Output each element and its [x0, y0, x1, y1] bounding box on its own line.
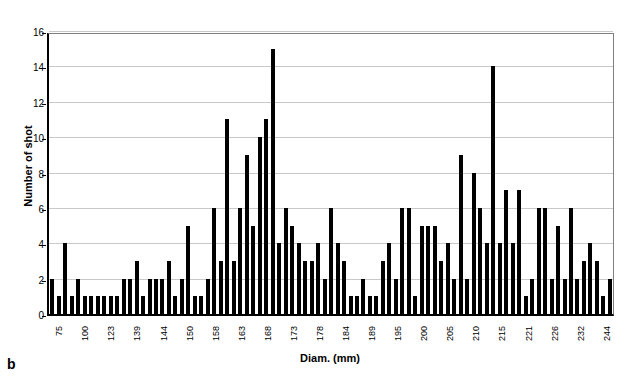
bar-65-value-8 [472, 173, 476, 315]
bar-20-value-2 [180, 279, 184, 314]
bar-40-value-3 [310, 261, 314, 314]
bar-35-value-4 [277, 243, 281, 314]
x-tick-label-144: 144 [159, 326, 169, 341]
bar-43-value-6 [329, 208, 333, 314]
bar-81-value-2 [575, 279, 579, 314]
bar-0-value-2 [50, 279, 54, 314]
bar-12-value-2 [128, 279, 132, 314]
bar-6-value-1 [89, 296, 93, 314]
bar-66-value-6 [478, 208, 482, 314]
x-tick-label-150: 150 [185, 326, 195, 341]
bar-18-value-3 [167, 261, 171, 314]
figure-canvas: Number of shot 0246810121416 75100123139… [0, 0, 627, 380]
bar-79-value-2 [563, 279, 567, 314]
bar-76-value-6 [543, 208, 547, 314]
y-tick-label-16: 16 [18, 27, 44, 38]
bar-58-value-5 [426, 226, 430, 314]
bar-80-value-6 [569, 208, 573, 314]
bar-24-value-2 [206, 279, 210, 314]
bar-55-value-6 [407, 208, 411, 314]
bar-15-value-2 [148, 279, 152, 314]
bar-25-value-6 [212, 208, 216, 314]
bar-63-value-9 [459, 155, 463, 314]
bar-44-value-4 [336, 243, 340, 314]
bar-73-value-1 [524, 296, 528, 314]
bar-8-value-1 [102, 296, 106, 314]
y-tick-label-6: 6 [18, 204, 44, 215]
bar-86-value-2 [608, 279, 612, 314]
bar-17-value-2 [160, 279, 164, 314]
bar-11-value-2 [122, 279, 126, 314]
bar-27-value-11 [225, 119, 229, 314]
bar-62-value-2 [452, 279, 456, 314]
bar-41-value-4 [316, 243, 320, 314]
bar-slot-86 [607, 34, 613, 314]
bar-54-value-6 [400, 208, 404, 314]
bar-72-value-7 [517, 190, 521, 314]
bar-67-value-4 [485, 243, 489, 314]
x-tick-label-158: 158 [211, 326, 221, 341]
bar-49-value-1 [368, 296, 372, 314]
bar-9-value-1 [109, 296, 113, 314]
bar-71-value-4 [511, 243, 515, 314]
bar-39-value-3 [303, 261, 307, 314]
x-tick-label-189: 189 [367, 326, 377, 341]
y-tick-label-10: 10 [18, 133, 44, 144]
bar-77-value-2 [550, 279, 554, 314]
y-tick-label-8: 8 [18, 169, 44, 180]
x-tick-label-200: 200 [419, 326, 429, 341]
y-tick-label-4: 4 [18, 239, 44, 250]
bar-38-value-4 [297, 243, 301, 314]
x-tick-label-75: 75 [54, 326, 64, 336]
bar-48-value-2 [361, 279, 365, 314]
x-tick-label-139: 139 [132, 326, 142, 341]
bar-19-value-1 [173, 296, 177, 314]
bar-47-value-1 [355, 296, 359, 314]
y-tick-mark-6 [42, 210, 46, 211]
bar-46-value-1 [349, 296, 353, 314]
bar-82-value-3 [582, 261, 586, 314]
bar-50-value-1 [374, 296, 378, 314]
bar-70-value-7 [504, 190, 508, 314]
y-tick-label-0: 0 [18, 310, 44, 321]
bar-26-value-3 [219, 261, 223, 314]
bar-42-value-2 [323, 279, 327, 314]
x-tick-label-205: 205 [445, 326, 455, 341]
bar-21-value-5 [186, 226, 190, 314]
bar-68-value-14 [491, 66, 495, 314]
bar-16-value-2 [154, 279, 158, 314]
y-tick-mark-0 [42, 316, 46, 317]
bar-45-value-3 [342, 261, 346, 314]
bar-1-value-1 [57, 296, 61, 314]
x-tick-label-173: 173 [289, 326, 299, 341]
x-tick-label-226: 226 [550, 326, 560, 341]
x-tick-label-232: 232 [576, 326, 586, 341]
bar-59-value-5 [433, 226, 437, 314]
bar-53-value-2 [394, 279, 398, 314]
x-tick-label-210: 210 [471, 326, 481, 341]
y-tick-mark-14 [42, 68, 46, 69]
bar-4-value-2 [76, 279, 80, 314]
bar-36-value-6 [284, 208, 288, 314]
x-tick-label-215: 215 [497, 326, 507, 341]
x-tick-label-123: 123 [106, 326, 116, 341]
bar-37-value-5 [290, 226, 294, 314]
y-tick-mark-16 [42, 33, 46, 34]
bar-84-value-3 [595, 261, 599, 314]
bar-3-value-1 [70, 296, 74, 314]
bar-33-value-11 [264, 119, 268, 314]
bar-69-value-4 [498, 243, 502, 314]
bars-group [49, 34, 613, 314]
bar-85-value-1 [601, 296, 605, 314]
bar-13-value-3 [135, 261, 139, 314]
bar-83-value-4 [588, 243, 592, 314]
x-tick-label-100: 100 [80, 326, 90, 341]
y-tick-label-2: 2 [18, 275, 44, 286]
gridline-y16 [49, 31, 613, 32]
bar-74-value-2 [530, 279, 534, 314]
bar-22-value-1 [193, 296, 197, 314]
bar-29-value-6 [238, 208, 242, 314]
bar-7-value-1 [96, 296, 100, 314]
plot-area [47, 33, 614, 316]
x-tick-label-221: 221 [524, 326, 534, 341]
